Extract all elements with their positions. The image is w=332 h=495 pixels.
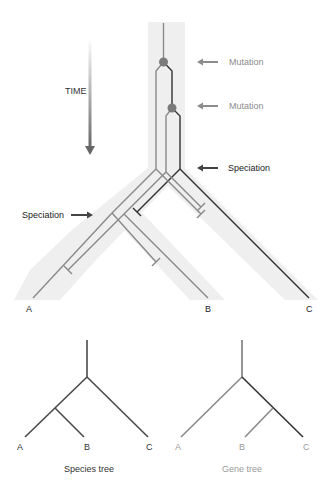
time-arrow	[85, 38, 95, 155]
mutation-dot-2	[168, 104, 177, 113]
speciation-label-right: Speciation	[228, 163, 270, 173]
gene-tip-c: C	[303, 442, 310, 452]
speciation-label-left: Speciation	[22, 210, 64, 220]
species-tree	[25, 340, 148, 437]
gene-tip-b: B	[239, 442, 245, 452]
tip-label-c: C	[306, 304, 313, 314]
gene-tree	[181, 340, 303, 437]
mutation-dot-1	[159, 58, 168, 67]
tip-label-b: B	[205, 304, 211, 314]
mutation-label-2: Mutation	[229, 101, 264, 111]
time-label: TIME	[65, 86, 87, 96]
species-tip-b: B	[84, 442, 90, 452]
species-tip-c: C	[146, 442, 153, 452]
mutation-label-1: Mutation	[229, 57, 264, 67]
gene-tree-diagram: TIME	[0, 0, 332, 495]
gene-tree-title: Gene tree	[222, 464, 262, 474]
species-tree-title: Species tree	[64, 464, 114, 474]
gene-tip-a: A	[175, 442, 181, 452]
tip-label-a: A	[26, 304, 32, 314]
species-tip-a: A	[17, 442, 23, 452]
